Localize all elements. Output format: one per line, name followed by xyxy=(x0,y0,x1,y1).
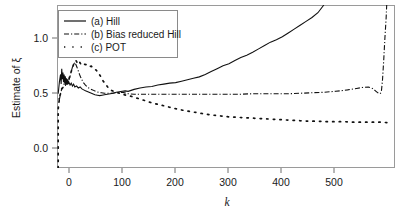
y-axis-ticks: 0.0 0.5 1.0 xyxy=(33,32,57,154)
x-tick-label-2: 200 xyxy=(166,176,184,188)
y-tick-label-2: 1.0 xyxy=(33,32,48,44)
series-line-pot xyxy=(58,60,388,168)
legend-label-bias-reduced-hill: (b) Bias reduced Hill xyxy=(91,29,181,40)
x-tick-label-4: 400 xyxy=(272,176,290,188)
x-tick-label-1: 100 xyxy=(113,176,131,188)
legend-label-pot: (c) POT xyxy=(91,42,126,53)
y-tick-label-0: 0.0 xyxy=(33,142,48,154)
legend-label-hill: (a) Hill xyxy=(91,16,120,27)
x-tick-label-0: 0 xyxy=(66,176,72,188)
x-tick-label-5: 500 xyxy=(325,176,343,188)
chart-svg: 0.0 0.5 1.0 0 100 200 300 400 500 k Esti… xyxy=(0,0,411,213)
y-tick-label-1: 0.5 xyxy=(33,87,48,99)
y-axis-title: Estimate of ξ xyxy=(10,58,22,118)
figure-container: 0.0 0.5 1.0 0 100 200 300 400 500 k Esti… xyxy=(0,0,411,213)
legend: (a) Hill (b) Bias reduced Hill (c) POT xyxy=(59,11,182,58)
x-axis-ticks: 0 100 200 300 400 500 xyxy=(66,168,343,188)
x-axis-title: k xyxy=(224,196,230,208)
x-tick-label-3: 300 xyxy=(219,176,237,188)
